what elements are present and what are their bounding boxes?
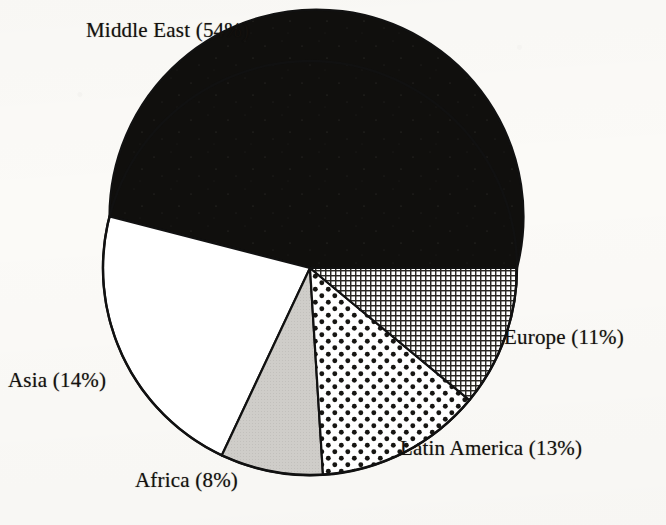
pie-label-europe: Europe (11%) [504,327,624,348]
pie-label-asia: Asia (14%) [8,370,106,391]
pie-label-africa: Africa (8%) [135,470,238,491]
pie-label-latin-america: Latin America (13%) [400,438,582,459]
pie-label-middle-east: Middle East (54%) [86,20,249,41]
pie-chart-page: Middle East (54%) Europe (11%) Latin Ame… [0,0,666,525]
pie-slice-middle-east[interactable] [109,10,523,268]
